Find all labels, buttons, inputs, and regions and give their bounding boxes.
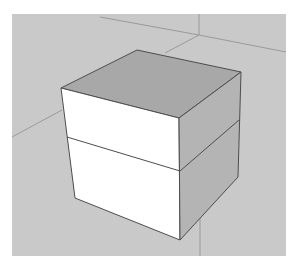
green-axis-front xyxy=(165,35,199,53)
scene-canvas[interactable] xyxy=(12,14,286,256)
red-axis-right xyxy=(199,35,286,52)
red-axis-left xyxy=(12,110,62,137)
green-axis-back xyxy=(100,17,199,35)
3d-viewport[interactable] xyxy=(12,14,286,256)
box-model[interactable] xyxy=(61,50,241,240)
